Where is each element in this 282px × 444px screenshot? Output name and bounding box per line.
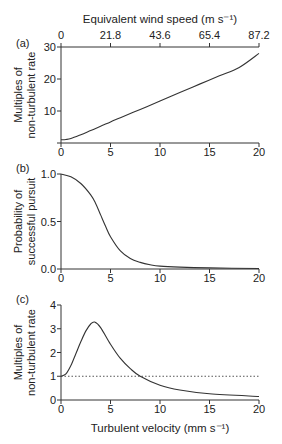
top-tick-label: 43.6 xyxy=(149,29,170,41)
x-tick-label: 20 xyxy=(253,272,265,284)
panel-a-chart: 10203005101520021.843.665.487.2Equivalen… xyxy=(12,13,270,158)
x-tick-label: 20 xyxy=(253,403,265,415)
y-axis-title: Multiples ofnon-turbulent rate xyxy=(12,52,37,139)
y-tick-label: 0 xyxy=(50,394,56,406)
y-tick-label: 20 xyxy=(44,73,56,85)
y-tick-label: 0.5 xyxy=(41,216,56,228)
top-tick-label: 65.4 xyxy=(199,29,220,41)
data-line xyxy=(61,322,259,397)
x-tick-label: 5 xyxy=(107,146,113,158)
x-tick-label: 10 xyxy=(154,146,166,158)
y-tick-label: 3 xyxy=(50,323,56,335)
x-tick-label: 0 xyxy=(58,272,64,284)
x-tick-label: 10 xyxy=(154,272,166,284)
panel-letter: (a) xyxy=(16,37,29,49)
y-tick-label: 30 xyxy=(44,41,56,53)
top-tick-label: 87.2 xyxy=(248,29,269,41)
x-tick-label: 20 xyxy=(253,146,265,158)
x-tick-label: 5 xyxy=(107,403,113,415)
y-tick-label: 2 xyxy=(50,347,56,359)
y-tick-label: 1 xyxy=(50,370,56,382)
panel-letter: (c) xyxy=(16,293,29,305)
x-axis-title: Turbulent velocity (mm s⁻¹) xyxy=(91,422,230,434)
x-tick-label: 15 xyxy=(203,146,215,158)
y-tick-label: 1.0 xyxy=(41,168,56,180)
y-tick-label: 4 xyxy=(50,299,56,311)
data-line xyxy=(61,174,259,269)
x-tick-label: 15 xyxy=(203,403,215,415)
x-tick-label: 0 xyxy=(58,403,64,415)
x-tick-label: 10 xyxy=(154,403,166,415)
top-axis-title: Equivalent wind speed (m s⁻¹) xyxy=(83,13,237,25)
y-axis-title: Probability ofsuccessful pursuit xyxy=(12,178,37,265)
x-tick-label: 5 xyxy=(107,272,113,284)
y-axis-title: Multiples ofnon-turbulent rate xyxy=(12,309,37,396)
x-tick-label: 15 xyxy=(203,272,215,284)
panel-b-chart: 0.00.51.005101520(b)Probability ofsucces… xyxy=(12,162,265,284)
figure: 10203005101520021.843.665.487.2Equivalen… xyxy=(0,0,282,444)
x-tick-label: 0 xyxy=(58,146,64,158)
y-tick-label: 10 xyxy=(44,105,56,117)
top-tick-label: 0 xyxy=(58,29,64,41)
panel-letter: (b) xyxy=(16,162,29,174)
y-tick-label: 0.0 xyxy=(41,263,56,275)
top-tick-label: 21.8 xyxy=(100,29,121,41)
panel-c-chart: 0123405101520(c)Multiples ofnon-turbulen… xyxy=(12,293,265,434)
data-line xyxy=(61,53,259,139)
